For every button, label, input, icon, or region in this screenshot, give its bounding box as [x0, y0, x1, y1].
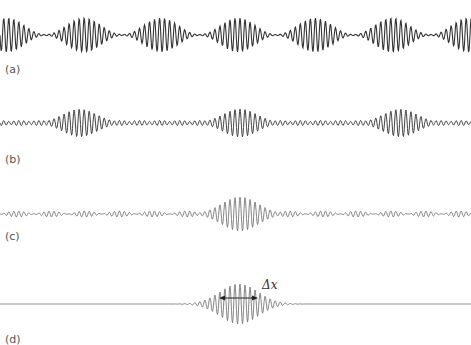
panel-label-a: (a) — [5, 63, 20, 76]
wave-panel-c — [0, 197, 471, 231]
panel-label-c: (c) — [5, 230, 20, 243]
delta-x-label: Δx — [262, 278, 277, 292]
wave-panel-d — [0, 284, 471, 324]
panel-label-d: (d) — [5, 333, 21, 345]
wave-panel-a — [0, 18, 471, 52]
panel-label-b: (b) — [5, 153, 21, 166]
wave-panel-b — [0, 109, 471, 137]
wave-packet-figure — [0, 0, 471, 345]
